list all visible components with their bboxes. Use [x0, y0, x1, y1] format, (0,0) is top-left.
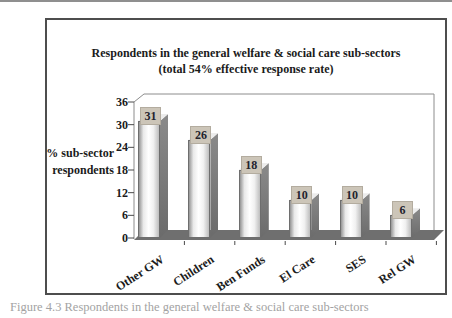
- y-axis-title-line2: respondents: [28, 162, 114, 179]
- y-axis-title: % sub-sector respondents: [28, 145, 114, 179]
- chart-title-line2: (total 54% effective response rate): [45, 61, 447, 77]
- page-top-rule: [0, 0, 452, 2]
- figure-caption: Figure 4.3 Respondents in the general we…: [10, 300, 450, 315]
- y-axis-title-line1: % sub-sector: [28, 145, 114, 162]
- chart-title: Respondents in the general welfare & soc…: [45, 45, 447, 77]
- chart-title-line1: Respondents in the general welfare & soc…: [45, 45, 447, 61]
